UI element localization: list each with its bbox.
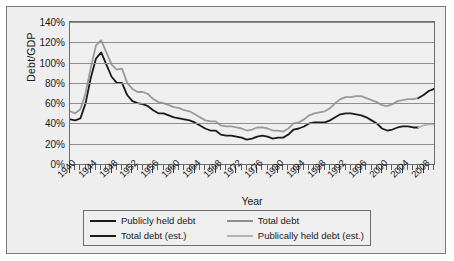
gridline <box>70 144 434 145</box>
legend-item[interactable]: Total debt (est.) <box>90 230 227 241</box>
gridline <box>70 123 434 124</box>
y-axis-tick-label: 40% <box>23 118 65 129</box>
legend-item[interactable]: Publically held debt (est.) <box>227 230 364 241</box>
legend-swatch <box>227 235 253 237</box>
plot-area <box>69 21 435 165</box>
series-line <box>418 89 434 98</box>
x-axis-minor-tick <box>433 165 434 170</box>
legend-swatch <box>90 235 116 237</box>
x-axis-title: Year <box>69 195 435 207</box>
gridline <box>70 22 434 23</box>
legend-label: Publically held debt (est.) <box>258 230 364 241</box>
y-axis-tick-label: 100% <box>23 57 65 68</box>
series-layer <box>70 22 434 164</box>
y-axis-tick-label: 20% <box>23 138 65 149</box>
legend-item[interactable]: Publicly held debt <box>90 215 227 226</box>
series-line <box>418 124 434 127</box>
y-axis-tick-label: 60% <box>23 98 65 109</box>
gridline <box>70 42 434 43</box>
legend-label: Publicly held debt <box>121 215 195 226</box>
y-axis-tick-label: 80% <box>23 77 65 88</box>
y-axis-tick-label: 120% <box>23 37 65 48</box>
chart-figure: Debt/GDP 0%20%40%60%80%100%120%140% 1940… <box>6 6 446 254</box>
gridline <box>70 103 434 104</box>
legend-swatch <box>227 220 253 222</box>
chart-legend: Publicly held debtTotal debtTotal debt (… <box>83 210 371 246</box>
y-axis-tick-label: 140% <box>23 17 65 28</box>
gridline <box>70 63 434 64</box>
series-line <box>70 52 418 139</box>
legend-swatch <box>90 220 116 222</box>
legend-label: Total debt (est.) <box>121 230 186 241</box>
gridline <box>70 83 434 84</box>
y-axis-tick-labels: 0%20%40%60%80%100%120%140% <box>21 21 65 165</box>
legend-item[interactable]: Total debt <box>227 215 364 226</box>
legend-label: Total debt <box>258 215 299 226</box>
